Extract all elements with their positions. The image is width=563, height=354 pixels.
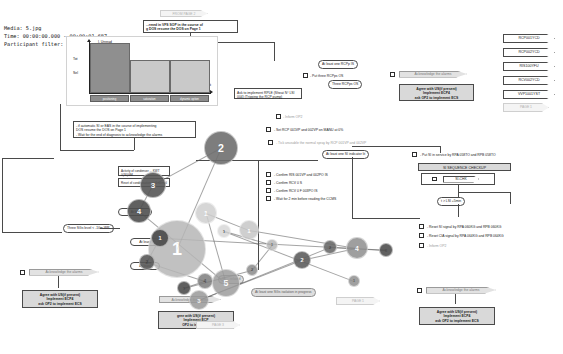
gaze-bubble-12[interactable]: 1 bbox=[151, 229, 169, 247]
gaze-bubble-19[interactable]: 1 bbox=[348, 275, 360, 287]
gaze-bubble-4[interactable]: 5 bbox=[212, 269, 240, 297]
gaze-bubble-1[interactable]: 2 bbox=[204, 131, 238, 165]
gaze-bubble-5[interactable]: 1 bbox=[195, 202, 217, 224]
gaze-bubble-14[interactable]: 4 bbox=[197, 273, 213, 289]
gaze-bubble-layer: 12345114232312412111 bbox=[0, 0, 563, 354]
gaze-bubble-13[interactable]: 2 bbox=[139, 254, 155, 270]
gaze-bubble-10[interactable]: 2 bbox=[323, 240, 337, 254]
gaze-bubble-7[interactable]: 4 bbox=[346, 237, 368, 259]
gaze-bubble-3[interactable]: 4 bbox=[127, 199, 151, 223]
gaze-bubble-2[interactable]: 3 bbox=[140, 172, 166, 198]
gaze-bubble-18[interactable]: 1 bbox=[217, 224, 231, 238]
gaze-overlay-canvas: FROM PAGE 2 ...rmed in VFS SOP in the co… bbox=[0, 0, 563, 354]
gaze-bubble-9[interactable]: 3 bbox=[189, 290, 209, 310]
gaze-bubble-15[interactable]: 1 bbox=[177, 281, 191, 295]
gaze-bubble-17[interactable]: 1 bbox=[266, 239, 278, 251]
gaze-bubble-8[interactable]: 2 bbox=[293, 251, 311, 269]
gaze-bubble-6[interactable]: 1 bbox=[239, 220, 259, 240]
gaze-bubble-11[interactable]: 3 bbox=[379, 243, 393, 257]
gaze-bubble-16[interactable]: 2 bbox=[246, 264, 258, 276]
